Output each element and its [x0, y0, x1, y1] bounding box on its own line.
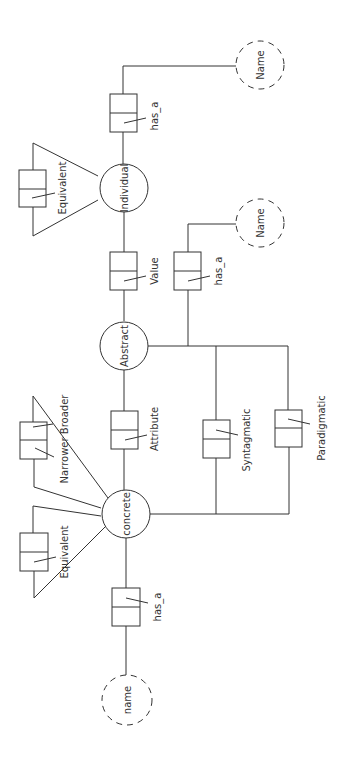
relation-syntagmatic: Syntagmatic — [203, 408, 252, 471]
connectors — [33, 66, 289, 675]
value-label: Value — [149, 257, 160, 284]
paradigmatic-label: Paradigmatic — [316, 395, 327, 461]
relation-has-a-top: has_a — [110, 94, 161, 132]
syntagmatic-label: Syntagmatic — [241, 408, 252, 471]
relation-has-a-mid: has_a — [174, 252, 225, 290]
individual-node: Individual — [100, 164, 148, 213]
relation-equivalent-top: Equivalent — [19, 161, 68, 214]
relation-narrower-broader: Narrower Broader — [20, 394, 70, 484]
individual-label: Individual — [119, 164, 130, 213]
concrete-label: concrete — [121, 492, 132, 536]
abstract-label: Abstract — [119, 325, 130, 367]
name-node-bottom: name — [102, 675, 152, 725]
has-a-mid-label: has_a — [213, 257, 225, 286]
concrete-node: concrete — [102, 490, 150, 538]
name-node-top: Name — [236, 41, 284, 89]
attribute-label: Attribute — [149, 407, 160, 451]
relation-has-a-bottom: has_a — [112, 588, 164, 626]
relation-equivalent-bottom: Equivalent — [20, 525, 70, 578]
name-mid-label: Name — [255, 208, 266, 238]
has-a-top-label: has_a — [149, 102, 161, 131]
has-a-bottom-label: has_a — [152, 593, 164, 622]
concept-diagram: Name has_a Equivalent Individual Name Va… — [0, 0, 337, 763]
equivalent-bottom-label: Equivalent — [59, 525, 70, 578]
name-node-mid: Name — [236, 199, 284, 247]
narrower-broader-label: Narrower Broader — [59, 394, 70, 484]
equivalent-top-label: Equivalent — [57, 161, 68, 214]
relation-attribute: Attribute — [111, 407, 160, 451]
abstract-node: Abstract — [100, 322, 148, 370]
name-top-label: Name — [255, 50, 266, 80]
name-bottom-label: name — [122, 686, 133, 714]
relation-paradigmatic: Paradigmatic — [275, 395, 327, 461]
relation-value: Value — [110, 252, 160, 290]
